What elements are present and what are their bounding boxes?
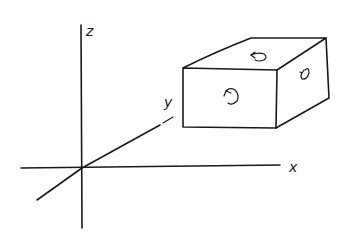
diagram-canvas: z y x	[0, 0, 343, 240]
z-axis	[81, 25, 82, 228]
x-axis-label: x	[288, 159, 298, 175]
counterclockwise-arrow-icon	[300, 69, 309, 80]
counterclockwise-arrow-icon	[224, 89, 238, 104]
y-axis-label: y	[163, 94, 173, 110]
y-axis	[37, 125, 160, 200]
z-axis-label: z	[85, 23, 94, 39]
box-right-face	[276, 38, 329, 128]
counterclockwise-arrow-icon	[251, 52, 266, 61]
rectangular-box	[183, 38, 329, 128]
box-front-face	[183, 68, 277, 128]
y-axis-dashed-end	[163, 117, 173, 123]
x-axis	[21, 165, 280, 168]
